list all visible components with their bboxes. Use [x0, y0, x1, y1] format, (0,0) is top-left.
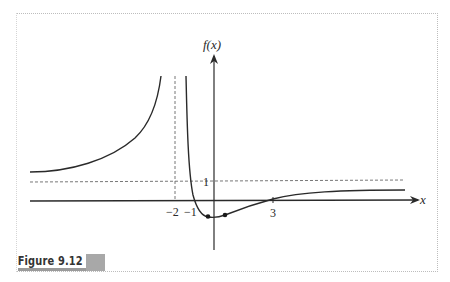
horizontal-asymptote	[30, 180, 405, 182]
x-tick-label-neg1: −1	[184, 205, 197, 219]
y-tick-label-1: 1	[203, 175, 209, 189]
x-tick-label-neg2: −2	[166, 205, 179, 219]
curve-left-branch	[30, 76, 161, 172]
curve-right-branch	[186, 76, 405, 217]
inflection-point-marker	[223, 213, 228, 218]
function-plot: f(x) x −2 −1 3 1	[0, 0, 450, 282]
x-tick-label-3: 3	[270, 206, 276, 220]
minimum-point-marker	[206, 214, 211, 219]
x-axis-label: x	[419, 192, 426, 207]
caption-accent-block	[86, 254, 105, 271]
y-axis-label: f(x)	[203, 37, 221, 52]
caption-underline	[18, 268, 86, 271]
caption-text: Figure 9.12	[16, 254, 73, 269]
x-axis	[30, 200, 418, 201]
